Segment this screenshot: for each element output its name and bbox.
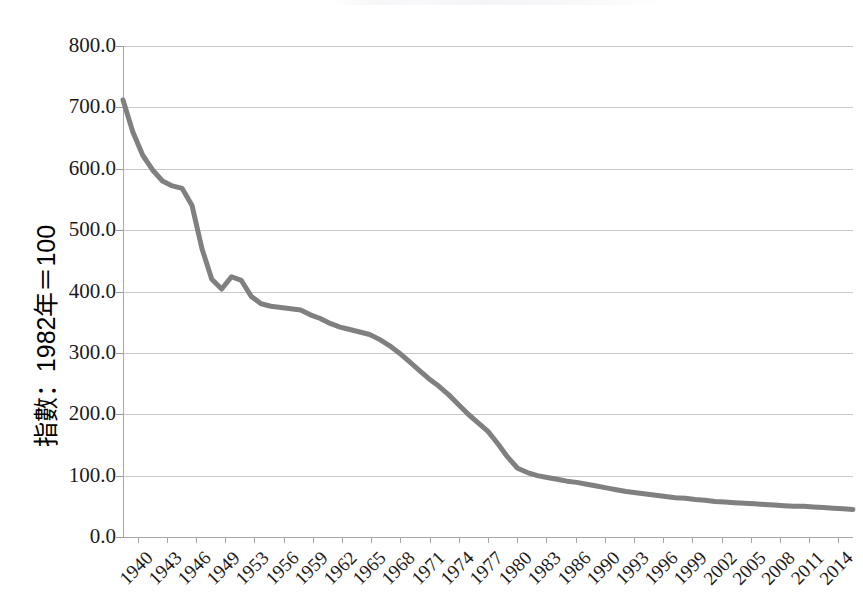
x-tick-mark [459,538,460,543]
x-tick-mark [196,538,197,543]
x-tick-mark [313,538,314,543]
x-tick-mark [663,538,664,543]
x-tick-mark [546,538,547,543]
x-tick-mark [692,538,693,543]
x-tick-mark [780,538,781,543]
series-line-index [123,100,853,509]
x-tick-mark [284,538,285,543]
x-tick-mark [254,538,255,543]
x-tick-mark [342,538,343,543]
x-tick-mark [488,538,489,543]
chart-canvas: 指數：1982年＝100 0.0100.0200.0300.0400.0500.… [0,0,863,602]
x-tick-mark [138,538,139,543]
x-tick-mark [751,538,752,543]
x-tick-mark [517,538,518,543]
x-tick-mark [430,538,431,543]
x-tick-mark [722,538,723,543]
x-tick-mark [371,538,372,543]
x-tick-mark [576,538,577,543]
x-tick-mark [225,538,226,543]
x-tick-mark [400,538,401,543]
x-tick-mark [838,538,839,543]
x-tick-mark [634,538,635,543]
x-tick-mark [167,538,168,543]
x-tick-mark [605,538,606,543]
data-series-layer [0,0,863,602]
x-tick-mark [809,538,810,543]
